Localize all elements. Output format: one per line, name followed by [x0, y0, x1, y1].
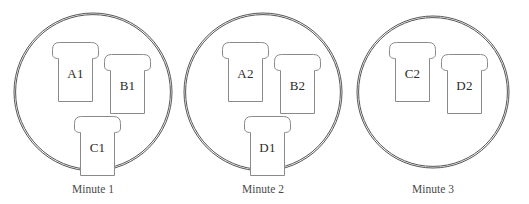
bread-icon: [222, 42, 269, 102]
bread-icon: [389, 42, 436, 102]
bread-icon: [74, 116, 121, 176]
bread-icon: [244, 116, 291, 176]
bread-outline: [53, 43, 99, 102]
group-caption: Minute 3: [373, 184, 493, 196]
bread-icon: [441, 54, 488, 114]
bread-item-b1[interactable]: B1: [104, 54, 151, 114]
bread-item-d1[interactable]: D1: [244, 116, 291, 176]
bread-item-c2[interactable]: C2: [389, 42, 436, 102]
bread-outline: [442, 55, 488, 114]
group-caption: Minute 2: [203, 184, 323, 196]
bread-outline: [75, 117, 121, 176]
bread-item-b2[interactable]: B2: [274, 54, 321, 114]
diagram-canvas: A1B1C1Minute 1A2B2D1Minute 2C2D2Minute 3: [0, 0, 529, 204]
bread-item-a2[interactable]: A2: [222, 42, 269, 102]
bread-outline: [245, 117, 291, 176]
bread-outline: [223, 43, 269, 102]
bread-outline: [105, 55, 151, 114]
bread-icon: [104, 54, 151, 114]
bread-icon: [52, 42, 99, 102]
bread-outline: [390, 43, 436, 102]
bread-icon: [274, 54, 321, 114]
bread-outline: [275, 55, 321, 114]
bread-item-c1[interactable]: C1: [74, 116, 121, 176]
bread-item-d2[interactable]: D2: [441, 54, 488, 114]
bread-item-a1[interactable]: A1: [52, 42, 99, 102]
group-caption: Minute 1: [33, 184, 153, 196]
